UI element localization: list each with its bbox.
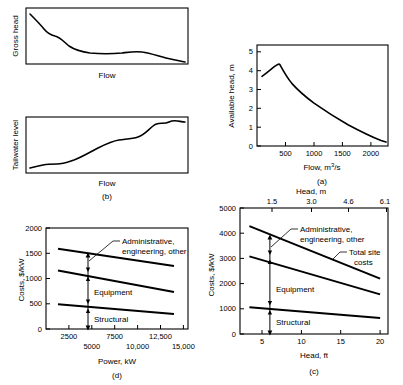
- costs-head-ytick-3000: 3000: [219, 254, 236, 263]
- panel-costs-power: 0 500 1000 1500 2000 2500 7500 12,500 50…: [17, 224, 195, 380]
- costs-power-xtick-15000: 15,000: [172, 342, 195, 351]
- costs-head-ytick-5000: 5000: [219, 204, 236, 213]
- costs-head-ytick-2000: 2000: [219, 279, 236, 288]
- available-head-plot-frame: [257, 45, 388, 146]
- costs-head-xtick-top-3-0: 3.0: [306, 197, 316, 206]
- panel-tailwater: Tailwater level Flow (b): [11, 117, 188, 201]
- gross-head-plot-frame: [26, 8, 188, 64]
- available-head-ytick-3: 3: [249, 85, 253, 94]
- costs-power-ytick-1500: 1500: [25, 249, 42, 258]
- costs-power-annotation-admin: Administrative, engineering, other: [89, 237, 187, 261]
- costs-head-xtick-top-6-1: 6.1: [380, 197, 390, 206]
- available-head-curve: [262, 64, 386, 142]
- panel-gross-head: Gross head Flow: [11, 8, 188, 80]
- panel-costs-head: 0 1000 2000 3000 4000 5000 5 10 15 20 1.…: [207, 187, 390, 376]
- costs-power-equipment-label: Equipment: [94, 288, 133, 297]
- costs-power-xtick-7500: 7500: [106, 332, 123, 341]
- available-head-xtick-2000: 2000: [363, 149, 380, 158]
- costs-head-xtick-5: 5: [260, 337, 264, 346]
- costs-head-xtick-top-1-5: 1.5: [267, 197, 277, 206]
- costs-power-admin-line2: engineering, other: [122, 247, 187, 256]
- tailwater-x-axis-label: Flow: [99, 179, 116, 188]
- costs-head-xtick-top-4-6: 4.6: [343, 197, 353, 206]
- costs-power-ytick-500: 500: [29, 299, 42, 308]
- available-head-y-axis-label: Available head, m: [227, 64, 236, 128]
- costs-power-x-axis-label: Power, kW: [98, 357, 137, 366]
- available-head-xtick-500: 500: [279, 149, 292, 158]
- costs-head-ytick-1000: 1000: [219, 304, 236, 313]
- costs-head-total-line1: Total site: [349, 248, 381, 257]
- costs-head-xtick-20: 20: [376, 337, 384, 346]
- costs-head-total-line2: costs: [354, 258, 373, 267]
- costs-head-dimension-arrow: [268, 235, 273, 336]
- costs-head-x-ticks-top: 1.5 3.0 4.6 6.1: [267, 197, 390, 212]
- costs-head-admin-line1: Administrative,: [300, 225, 352, 234]
- costs-head-annotation-total: Total site costs: [333, 248, 381, 267]
- gross-head-curve: [30, 14, 185, 62]
- panel-available-head: 0 1 2 3 4 5 500 1000 1500 2000 Available…: [227, 45, 388, 186]
- costs-power-xtick-10000: 10,000: [126, 342, 149, 351]
- costs-power-xtick-2500: 2500: [61, 332, 78, 341]
- costs-head-panel-caption: (c): [309, 367, 319, 376]
- costs-head-x-axis-label: Head, ft: [300, 351, 329, 360]
- costs-head-ytick-4000: 4000: [219, 229, 236, 238]
- costs-head-x-axis-label-top: Head, m: [296, 187, 327, 196]
- costs-power-ytick-0: 0: [38, 325, 42, 334]
- available-head-ytick-2: 2: [249, 104, 253, 113]
- costs-head-admin-line2: engineering, other: [300, 235, 365, 244]
- costs-head-y-axis-label: Costs, $/kW: [207, 253, 216, 297]
- costs-power-line-structural: [58, 304, 174, 314]
- gross-head-x-axis-label: Flow: [99, 71, 116, 80]
- costs-head-xtick-15: 15: [337, 337, 345, 346]
- costs-head-ytick-0: 0: [232, 330, 236, 339]
- gross-head-y-axis-label: Gross head: [11, 15, 20, 56]
- costs-power-ytick-2000: 2000: [25, 224, 42, 233]
- costs-head-annotation-admin: Administrative, engineering, other: [271, 225, 365, 247]
- available-head-ytick-4: 4: [249, 66, 253, 75]
- available-head-xtick-1500: 1500: [334, 149, 351, 158]
- costs-power-admin-line1: Administrative,: [122, 237, 174, 246]
- available-head-ytick-1: 1: [249, 123, 253, 132]
- available-head-ytick-5: 5: [249, 47, 253, 56]
- available-head-panel-caption: (a): [317, 177, 327, 186]
- available-head-ytick-0: 0: [249, 142, 253, 151]
- costs-head-x-ticks-bottom: 5 10 15 20: [260, 330, 384, 346]
- available-head-x-ticks: 500 1000 1500 2000: [279, 142, 379, 158]
- figure-svg: Gross head Flow Tailwater level Flow (b)…: [0, 0, 403, 385]
- costs-power-xtick-12500: 12,500: [149, 332, 172, 341]
- costs-power-xtick-5000: 5000: [83, 342, 100, 351]
- tailwater-panel-caption: (b): [102, 192, 112, 201]
- costs-head-xtick-10: 10: [297, 337, 305, 346]
- costs-head-structural-label: Structural: [276, 318, 310, 327]
- figure-container: Gross head Flow Tailwater level Flow (b)…: [0, 0, 403, 385]
- available-head-x-axis-label: Flow, m3/s: [303, 162, 340, 172]
- costs-power-panel-caption: (d): [112, 371, 122, 380]
- tailwater-curve: [30, 121, 185, 168]
- costs-power-structural-label: Structural: [94, 315, 128, 324]
- available-head-xtick-1000: 1000: [306, 149, 323, 158]
- costs-power-y-axis-label: Costs, $/kW: [17, 258, 26, 302]
- tailwater-y-axis-label: Tailwater level: [11, 120, 20, 170]
- costs-power-ytick-1000: 1000: [25, 274, 42, 283]
- costs-power-dimension-arrow: [86, 253, 91, 331]
- costs-head-equipment-label: Equipment: [276, 285, 315, 294]
- available-head-y-ticks: 0 1 2 3 4 5: [249, 47, 261, 150]
